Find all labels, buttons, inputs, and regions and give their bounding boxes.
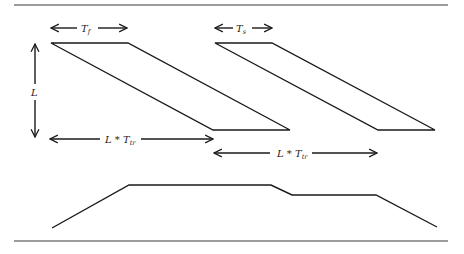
timing-diagram: Tf Ts L L * Ttr L * Ttr: [0, 0, 464, 254]
tf-label: Tf: [81, 23, 92, 36]
ltr-dimension-1: L * Ttr: [50, 134, 213, 147]
parallelogram-1: [51, 43, 290, 130]
l-label: L: [30, 87, 38, 98]
load-profile: [52, 185, 437, 228]
ts-label: Ts: [236, 23, 247, 36]
ts-dimension: Ts: [215, 23, 272, 36]
parallelogram-2: [215, 43, 435, 130]
ltr-label-2: L * Ttr: [276, 148, 308, 161]
tf-dimension: Tf: [51, 23, 127, 36]
l-dimension: L: [30, 44, 38, 137]
ltr-dimension-2: L * Ttr: [214, 148, 377, 161]
ltr-label-1: L * Ttr: [104, 134, 136, 147]
